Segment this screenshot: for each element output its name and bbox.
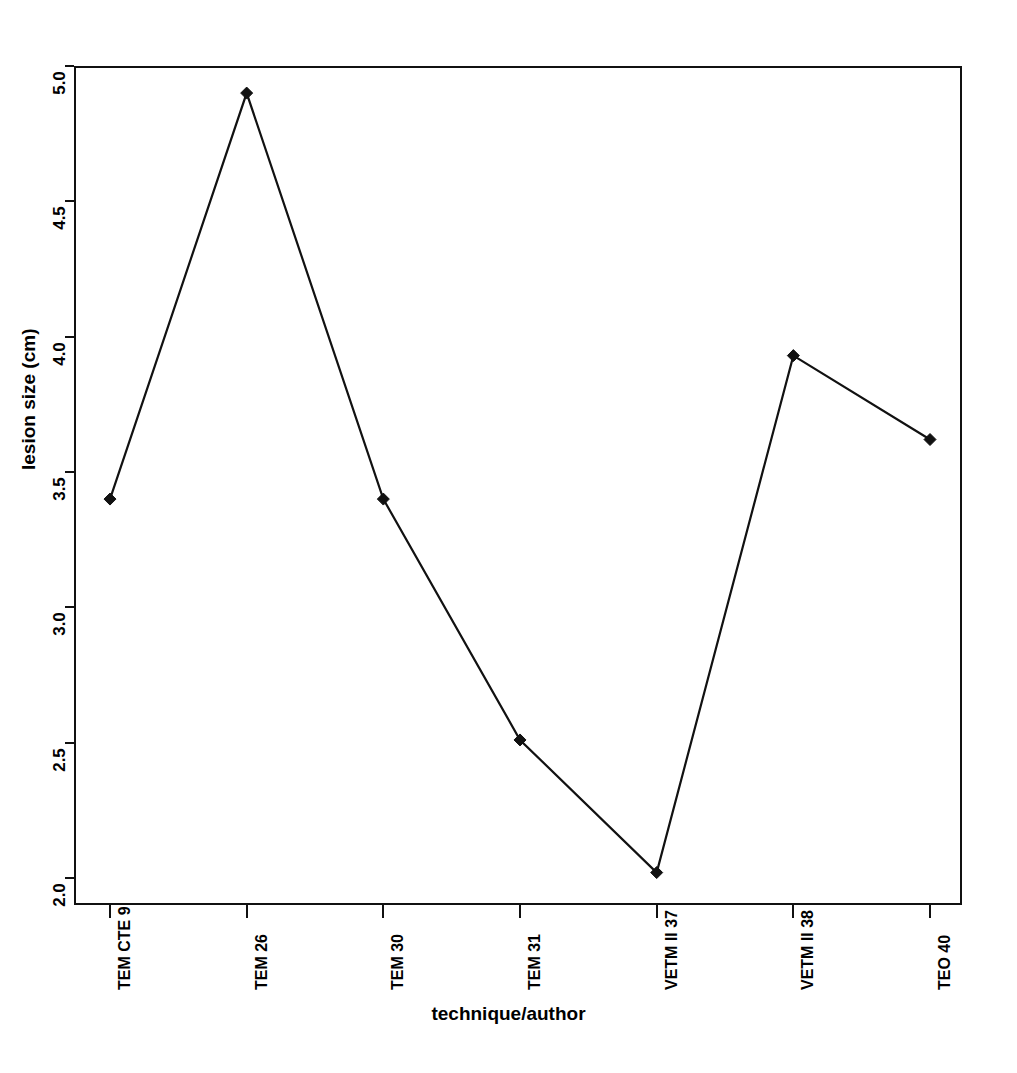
y-tick-label: 2.0: [50, 878, 70, 912]
x-tick-label: TEM CTE 9: [116, 906, 134, 990]
plot-frame: [74, 66, 962, 905]
x-tick-mark: [109, 905, 111, 918]
x-tick-label: TEM 26: [253, 934, 271, 990]
y-tick-label: 3.5: [50, 472, 70, 506]
x-tick-label: TEM 30: [389, 934, 407, 990]
x-tick-mark: [382, 905, 384, 918]
y-tick-label: 5.0: [50, 66, 70, 100]
y-axis-title: lesion size (cm): [18, 329, 40, 471]
x-tick-mark: [519, 905, 521, 918]
y-tick-label: 2.5: [50, 743, 70, 777]
x-tick-mark: [656, 905, 658, 918]
y-tick-label: 4.0: [50, 337, 70, 371]
x-tick-label: TEM 31: [526, 934, 544, 990]
x-tick-mark: [792, 905, 794, 918]
x-tick-mark: [246, 905, 248, 918]
y-tick-label: 3.0: [50, 607, 70, 641]
chart-figure: 2.02.53.03.54.04.55.0 lesion size (cm) T…: [0, 0, 1017, 1073]
x-tick-label: TEO 40: [936, 935, 954, 990]
y-tick-label: 4.5: [50, 201, 70, 235]
x-tick-label: VETM II 37: [663, 910, 681, 990]
x-axis-title: technique/author: [0, 1003, 1017, 1025]
x-tick-label: VETM II 38: [799, 910, 817, 990]
x-tick-mark: [929, 905, 931, 918]
